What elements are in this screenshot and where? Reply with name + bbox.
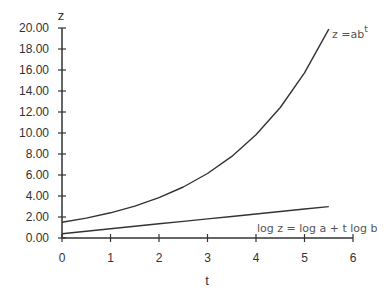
y-tick-label: 20.00: [19, 21, 49, 35]
y-tick-label: 14.00: [19, 84, 49, 98]
x-tick-label: 1: [107, 251, 114, 265]
y-tick-label: 0.00: [26, 231, 50, 245]
y-tick-label: 6.00: [26, 168, 50, 182]
exponential-curve: [62, 29, 329, 222]
annotation-log-linear: log z = log a + t log b: [257, 222, 378, 235]
y-axis-title: z: [58, 8, 65, 23]
annotation-exponential: z =abt: [332, 24, 368, 41]
y-tick-label: 10.00: [19, 126, 49, 140]
x-tick-label: 6: [350, 251, 357, 265]
x-tick-label: 5: [301, 251, 308, 265]
y-tick-label: 18.00: [19, 42, 49, 56]
y-tick-label: 8.00: [26, 147, 50, 161]
y-tick-label: 12.00: [19, 105, 49, 119]
y-tick-label: 2.00: [26, 210, 50, 224]
x-axis-title: t: [205, 273, 209, 288]
x-tick-label: 3: [204, 251, 211, 265]
x-tick-label: 2: [156, 251, 163, 265]
chart: 0.002.004.006.008.0010.0012.0014.0016.00…: [0, 0, 386, 304]
y-tick-label: 4.00: [26, 189, 50, 203]
x-axis: 0123456: [59, 234, 357, 265]
series-layer: [62, 29, 329, 234]
x-tick-label: 4: [253, 251, 260, 265]
y-tick-label: 16.00: [19, 63, 49, 77]
y-axis: 0.002.004.006.008.0010.0012.0014.0016.00…: [19, 21, 66, 245]
x-tick-label: 0: [59, 251, 66, 265]
